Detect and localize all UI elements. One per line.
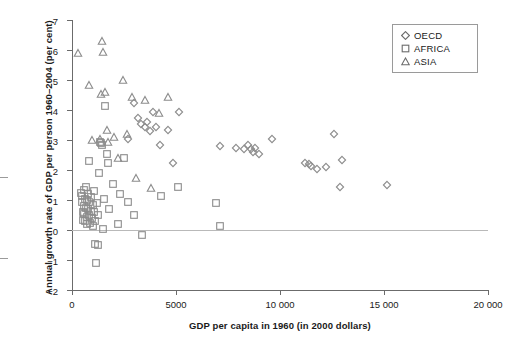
data-point-africa	[114, 220, 122, 228]
data-point-africa	[85, 157, 93, 165]
x-tick-label: 10 000	[265, 299, 294, 310]
data-point-africa	[99, 225, 107, 233]
diamond-icon	[398, 30, 412, 41]
x-tick-label: 0	[69, 299, 74, 310]
y-tick: 4	[67, 110, 72, 111]
data-point-oecd	[164, 126, 172, 134]
x-tick	[176, 290, 177, 295]
x-tick-label: 5000	[165, 299, 186, 310]
x-tick-label: 20 000	[473, 299, 502, 310]
data-point-africa	[174, 183, 182, 191]
data-point-asia	[101, 88, 109, 96]
data-point-asia	[97, 90, 105, 98]
data-point-africa	[86, 219, 94, 227]
y-tick-label: 1	[18, 201, 58, 202]
data-point-africa	[116, 190, 124, 198]
square-icon	[398, 43, 412, 54]
data-point-africa	[85, 198, 93, 206]
triangle-icon	[398, 56, 412, 67]
y-axis-line	[72, 20, 73, 291]
y-tick: 6	[67, 50, 72, 51]
data-point-africa	[79, 208, 87, 216]
x-tick	[72, 290, 73, 295]
data-point-asia	[132, 174, 140, 182]
y-tick-label: 2	[18, 171, 58, 172]
data-point-asia	[98, 37, 106, 45]
y-tick-label: 5	[18, 81, 58, 82]
x-tick	[280, 290, 281, 295]
page-edge-mark-top	[0, 177, 8, 178]
legend-label-oecd: OECD	[412, 30, 442, 41]
data-point-africa	[124, 198, 132, 206]
x-tick	[488, 290, 489, 295]
y-tick-label: 6	[18, 51, 58, 52]
data-point-africa	[92, 259, 100, 267]
data-point-africa	[77, 189, 85, 197]
y-tick: 0	[67, 230, 72, 231]
data-point-oecd	[336, 183, 344, 191]
data-point-oecd	[307, 162, 315, 170]
data-point-oecd	[330, 130, 338, 138]
data-point-oecd	[301, 159, 309, 167]
data-point-africa	[97, 139, 105, 147]
data-point-oecd	[268, 135, 276, 143]
chart-legend: OECD AFRICA ASIA	[392, 24, 478, 73]
data-point-asia	[104, 138, 112, 146]
legend-item-oecd: OECD	[398, 29, 472, 42]
y-tick: 5	[67, 80, 72, 81]
data-point-africa	[84, 205, 92, 213]
data-point-oecd	[338, 156, 346, 164]
data-point-africa	[120, 154, 128, 162]
y-tick-label: −2	[18, 291, 58, 292]
data-point-oecd	[134, 114, 142, 122]
page-edge-mark-bottom	[0, 258, 8, 259]
scatter-chart-figure: Annual growth rate of GDP per person 196…	[0, 0, 518, 343]
y-tick-label: 3	[18, 141, 58, 142]
data-point-oecd	[169, 159, 177, 167]
y-tick-label: 4	[18, 111, 58, 112]
data-point-africa	[89, 222, 97, 230]
legend-item-asia: ASIA	[398, 55, 472, 68]
data-point-africa	[216, 222, 224, 230]
data-point-oecd	[232, 144, 240, 152]
data-point-africa	[104, 159, 112, 167]
data-point-africa	[80, 186, 88, 194]
data-point-asia	[128, 93, 136, 101]
y-tick-label: 0	[18, 231, 58, 232]
data-point-africa	[94, 211, 102, 219]
data-point-oecd	[383, 181, 391, 189]
data-point-asia	[141, 96, 149, 104]
data-point-africa	[89, 201, 97, 209]
legend-label-asia: ASIA	[412, 56, 436, 67]
data-point-africa	[105, 205, 113, 213]
data-point-oecd	[130, 99, 138, 107]
data-point-asia	[103, 126, 111, 134]
y-tick: 7	[67, 20, 72, 21]
data-point-africa	[157, 192, 165, 200]
y-tick: 1	[67, 200, 72, 201]
data-point-oecd	[322, 163, 330, 171]
data-point-africa	[83, 220, 91, 228]
data-point-oecd	[156, 141, 164, 149]
data-point-africa	[80, 202, 88, 210]
data-point-africa	[78, 192, 86, 200]
data-point-asia	[114, 154, 122, 162]
data-point-asia	[88, 136, 96, 144]
legend-item-africa: AFRICA	[398, 42, 472, 55]
data-point-africa	[81, 195, 89, 203]
data-point-oecd	[255, 150, 263, 158]
data-point-oecd	[247, 145, 255, 153]
data-point-africa	[84, 190, 92, 198]
data-point-oecd	[251, 144, 259, 152]
data-point-africa	[83, 213, 91, 221]
data-point-oecd	[152, 123, 160, 131]
data-point-asia	[99, 48, 107, 56]
data-point-africa	[94, 241, 102, 249]
data-point-asia	[85, 81, 93, 89]
x-tick	[384, 290, 385, 295]
legend-label-africa: AFRICA	[412, 43, 450, 54]
data-point-africa	[95, 169, 103, 177]
data-point-africa	[90, 208, 98, 216]
data-point-africa	[130, 211, 138, 219]
data-point-oecd	[149, 108, 157, 116]
